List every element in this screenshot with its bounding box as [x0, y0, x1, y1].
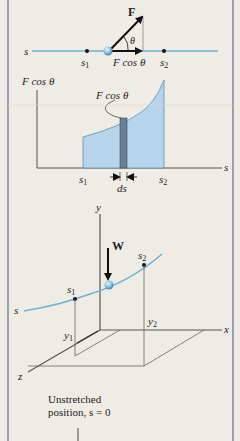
particle-3d	[105, 281, 114, 290]
unstretched-line-2: position, s = 0	[48, 406, 110, 419]
curve-label-leader	[105, 100, 121, 118]
point-s1-3d-label: s1	[67, 283, 75, 297]
height-y2-label: y2	[147, 315, 157, 329]
tick-s2-label: s2	[159, 173, 167, 187]
floor-right-line	[144, 330, 204, 366]
point-s1	[85, 49, 89, 53]
z-axis-label-3d: z	[17, 370, 23, 382]
curve-label: F cos θ	[95, 89, 129, 101]
diagram-canvas: s s1 s2 θ F F cos θ F cos θ s F cos θ s1…	[0, 0, 240, 441]
height-y1-label: y1	[63, 329, 73, 343]
x-axis-label: s	[224, 161, 228, 173]
differential-strip	[120, 118, 127, 168]
curved-path-label: s	[14, 304, 18, 316]
x-axis-label-3d: x	[223, 323, 229, 335]
y-axis-label-3d: y	[95, 201, 101, 213]
floor-back-line-1	[75, 330, 120, 356]
unstretched-position-label: Unstretched position, s = 0	[48, 393, 110, 419]
ds-label: ds	[117, 182, 127, 194]
point-s1-label: s1	[81, 56, 89, 70]
unstretched-line-1: Unstretched	[48, 393, 110, 406]
angle-arc	[124, 37, 128, 50]
tick-s1-label: s1	[79, 173, 87, 187]
point-s2-label: s2	[160, 56, 168, 70]
force-label: F	[128, 5, 135, 19]
angle-label: θ	[130, 35, 135, 46]
panel-work-graph: F cos θ s F cos θ s1 s2 ds	[21, 75, 228, 194]
particle	[104, 47, 113, 56]
panel-weight-3d: y x z s s1 s2 y1 y2 W	[14, 201, 229, 382]
force-arrow	[110, 17, 142, 50]
panel-force-on-line: s s1 s2 θ F F cos θ	[24, 5, 218, 70]
y1-tick	[77, 331, 98, 343]
y-axis-label: F cos θ	[21, 75, 55, 87]
point-s2	[162, 49, 166, 53]
path-label: s	[24, 45, 28, 57]
point-s2-3d-label: s2	[138, 249, 146, 263]
weight-label: W	[112, 239, 124, 253]
component-label: F cos θ	[112, 56, 146, 68]
